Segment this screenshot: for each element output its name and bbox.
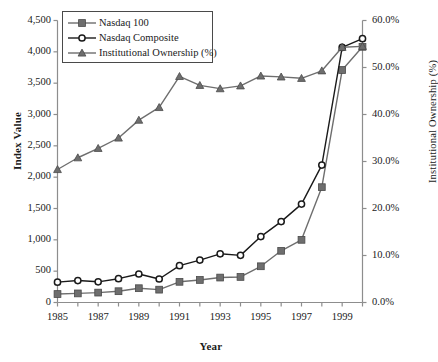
x-tick-label: 1993 bbox=[200, 311, 240, 322]
y-tick-label-left: 2,500 bbox=[5, 139, 51, 150]
y-tick-label-right: 20.0% bbox=[372, 202, 432, 213]
x-tick-label: 1987 bbox=[78, 311, 118, 322]
legend-key-glyph bbox=[67, 16, 97, 30]
y-tick-label-left: 500 bbox=[5, 264, 51, 275]
y-tick-label-left: 0 bbox=[5, 296, 51, 307]
data-point-marker bbox=[115, 288, 122, 295]
data-point-marker bbox=[278, 218, 284, 224]
x-tick-label: 1989 bbox=[119, 311, 159, 322]
x-tick-label: 1985 bbox=[38, 311, 78, 322]
y-tick-label-left: 4,500 bbox=[5, 14, 51, 25]
data-point-marker bbox=[319, 162, 325, 168]
y-tick-label-left: 2,000 bbox=[5, 170, 51, 181]
data-point-marker bbox=[94, 144, 102, 151]
data-point-marker bbox=[54, 166, 62, 173]
data-point-marker bbox=[79, 34, 85, 40]
data-point-marker bbox=[217, 251, 223, 257]
data-point-marker bbox=[135, 116, 143, 123]
y-tick-label-right: 50.0% bbox=[372, 61, 432, 72]
data-point-marker bbox=[258, 233, 264, 239]
data-point-marker bbox=[217, 274, 224, 281]
data-point-marker bbox=[176, 278, 183, 285]
chart-legend: Nasdaq 100 Nasdaq Composite Institutiona… bbox=[62, 11, 213, 63]
legend-label: Nasdaq Composite bbox=[97, 32, 179, 43]
data-point-marker bbox=[237, 274, 244, 281]
legend-label: Institutional Ownership (%) bbox=[97, 47, 217, 58]
legend-key-triangle-icon bbox=[67, 46, 97, 60]
data-point-marker bbox=[197, 257, 203, 263]
data-point-marker bbox=[359, 36, 365, 42]
data-point-marker bbox=[298, 236, 305, 243]
data-point-marker bbox=[237, 82, 245, 89]
y-tick-label-left: 4,000 bbox=[5, 45, 51, 56]
legend-item-nasdaq-composite: Nasdaq Composite bbox=[67, 30, 208, 45]
x-axis-title: Year bbox=[0, 340, 422, 352]
data-point-marker bbox=[79, 19, 86, 26]
legend-item-institutional-ownership: Institutional Ownership (%) bbox=[67, 45, 208, 60]
data-point-marker bbox=[176, 263, 182, 269]
legend-label: Nasdaq 100 bbox=[97, 17, 149, 28]
series-line bbox=[58, 39, 363, 282]
y-tick-label-left: 3,500 bbox=[5, 76, 51, 87]
y-tick-label-left: 1,500 bbox=[5, 202, 51, 213]
y-tick-label-right: 60.0% bbox=[372, 14, 432, 25]
data-point-marker bbox=[135, 285, 142, 292]
x-tick-label: 1997 bbox=[282, 311, 322, 322]
legend-key-circle-icon bbox=[67, 31, 97, 45]
data-point-marker bbox=[95, 279, 101, 285]
data-point-marker bbox=[176, 73, 184, 80]
x-tick-label: 1995 bbox=[241, 311, 281, 322]
data-point-marker bbox=[115, 276, 121, 282]
data-point-marker bbox=[318, 184, 325, 191]
x-tick-label: 1991 bbox=[160, 311, 200, 322]
data-point-marker bbox=[74, 154, 82, 161]
legend-key-square-icon bbox=[67, 16, 97, 30]
data-point-marker bbox=[278, 247, 285, 254]
y-tick-label-right: 30.0% bbox=[372, 155, 432, 166]
data-point-marker bbox=[54, 279, 60, 285]
y-tick-label-left: 1,000 bbox=[5, 233, 51, 244]
data-point-marker bbox=[74, 290, 81, 297]
x-tick-label: 1999 bbox=[322, 311, 362, 322]
data-point-marker bbox=[95, 289, 102, 296]
series-line bbox=[58, 46, 363, 169]
legend-key-glyph bbox=[67, 46, 97, 60]
y-tick-label-right: 10.0% bbox=[372, 249, 432, 260]
data-point-marker bbox=[54, 291, 61, 298]
legend-key-glyph bbox=[67, 31, 97, 45]
data-point-marker bbox=[136, 271, 142, 277]
data-point-marker bbox=[196, 277, 203, 284]
data-point-marker bbox=[237, 252, 243, 258]
y-tick-label-right: 40.0% bbox=[372, 108, 432, 119]
data-point-marker bbox=[196, 81, 204, 88]
legend-item-nasdaq-100: Nasdaq 100 bbox=[67, 15, 208, 30]
data-point-marker bbox=[75, 277, 81, 283]
data-point-marker bbox=[257, 263, 264, 270]
data-point-marker bbox=[156, 276, 162, 282]
data-point-marker bbox=[155, 104, 163, 111]
y-tick-label-right: 0.0% bbox=[372, 296, 432, 307]
y-tick-label-left: 3,000 bbox=[5, 108, 51, 119]
data-point-marker bbox=[156, 286, 163, 293]
data-point-marker bbox=[339, 67, 346, 74]
data-point-marker bbox=[298, 201, 304, 207]
